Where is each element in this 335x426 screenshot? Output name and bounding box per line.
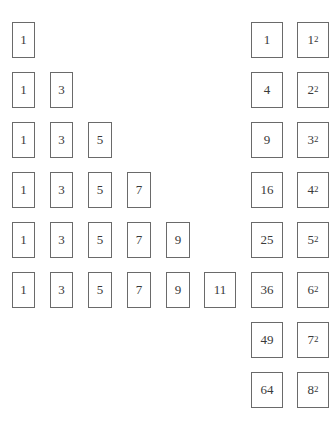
odd-number-box: 5 xyxy=(88,222,112,258)
odd-number-box: 3 xyxy=(50,172,73,208)
odd-number-box: 5 xyxy=(88,272,112,308)
odd-number-box: 1 xyxy=(12,122,35,158)
odd-number-box: 1 xyxy=(12,72,35,108)
odd-number-box: 1 xyxy=(12,172,35,208)
square-box: 62 xyxy=(297,272,329,308)
square-exponent: 2 xyxy=(314,34,319,44)
odd-number-box: 3 xyxy=(50,222,73,258)
square-exponent: 2 xyxy=(314,184,319,194)
square-exponent: 2 xyxy=(314,284,319,294)
odd-number-box: 7 xyxy=(127,222,151,258)
sum-box: 4 xyxy=(251,72,283,108)
odd-number-box: 1 xyxy=(12,272,35,308)
odd-number-box: 9 xyxy=(166,272,190,308)
odd-number-box: 1 xyxy=(12,222,35,258)
odd-number-box: 7 xyxy=(127,172,151,208)
sum-box: 36 xyxy=(251,272,283,308)
sum-box: 64 xyxy=(251,372,283,408)
sum-box: 1 xyxy=(251,22,283,58)
odd-number-box: 7 xyxy=(127,272,151,308)
odd-number-box: 3 xyxy=(50,122,73,158)
square-exponent: 2 xyxy=(314,384,319,394)
square-exponent: 2 xyxy=(314,84,319,94)
sum-box: 9 xyxy=(251,122,283,158)
square-exponent: 2 xyxy=(314,334,319,344)
square-box: 52 xyxy=(297,222,329,258)
square-box: 72 xyxy=(297,322,329,358)
sum-box: 49 xyxy=(251,322,283,358)
odd-number-box: 11 xyxy=(204,272,236,308)
square-box: 32 xyxy=(297,122,329,158)
odd-number-box: 9 xyxy=(166,222,190,258)
square-exponent: 2 xyxy=(314,134,319,144)
square-box: 22 xyxy=(297,72,329,108)
odd-number-box: 5 xyxy=(88,172,112,208)
square-box: 82 xyxy=(297,372,329,408)
square-box: 12 xyxy=(297,22,329,58)
square-box: 42 xyxy=(297,172,329,208)
square-exponent: 2 xyxy=(314,234,319,244)
sum-box: 25 xyxy=(251,222,283,258)
sum-box: 16 xyxy=(251,172,283,208)
odd-number-box: 1 xyxy=(12,22,35,58)
odd-number-box: 3 xyxy=(50,72,73,108)
odd-number-box: 5 xyxy=(88,122,112,158)
odd-number-box: 3 xyxy=(50,272,73,308)
